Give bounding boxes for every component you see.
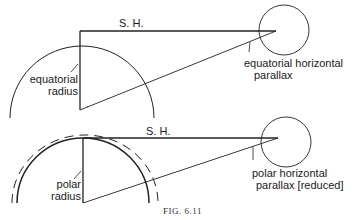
equatorial-radius-label-2: radius: [14, 85, 78, 97]
parallax-label-leader: [249, 42, 250, 52]
polar-parallax-label-2: parallax [reduced]: [256, 179, 343, 191]
equatorial-parallax-label-2: parallax: [254, 69, 293, 81]
sightline-from-center: [80, 31, 276, 110]
moon-circle: [259, 5, 309, 55]
equatorial-radius-label-1: equatorial: [14, 73, 78, 85]
polar-radius-label-1: polar: [30, 178, 81, 190]
radius-label-leader: [71, 64, 78, 72]
moon-circle-bottom: [261, 117, 311, 167]
sh-label-top: S. H.: [119, 17, 143, 29]
sightline-from-center-bottom: [83, 138, 278, 203]
figure-caption: FIG. 6.11: [163, 206, 202, 216]
polar-radius-label-2: radius: [30, 190, 81, 202]
equatorial-parallax-label-1: equatorial horizontal: [244, 57, 343, 69]
sh-label-bottom: S. H.: [146, 125, 170, 137]
polar-parallax-label-1: polar horizontal: [252, 167, 327, 179]
